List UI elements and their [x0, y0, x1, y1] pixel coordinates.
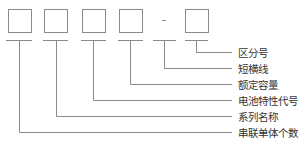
- label-series-cell-count: 串联单体个数: [238, 127, 298, 139]
- code-box-2: [45, 10, 68, 33]
- code-box-1: [9, 10, 32, 33]
- label-hyphen: 短横线: [238, 63, 268, 75]
- label-zone-code: 区分号: [238, 47, 268, 59]
- code-box-3: [83, 10, 106, 33]
- label-series-name: 系列名称: [238, 111, 278, 123]
- battery-model-code-diagram: 区分号 短横线 额定容量 电池特性代号 系列名称 串联单体个数: [0, 0, 305, 147]
- code-box-4: [120, 10, 143, 33]
- label-rated-capacity: 额定容量: [238, 79, 278, 91]
- label-battery-characteristic-code: 电池特性代号: [238, 95, 298, 107]
- code-box-5: [186, 10, 209, 33]
